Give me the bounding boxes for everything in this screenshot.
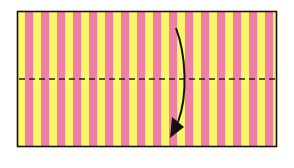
fold-diagram [0, 0, 294, 168]
striped-paper [18, 12, 277, 147]
